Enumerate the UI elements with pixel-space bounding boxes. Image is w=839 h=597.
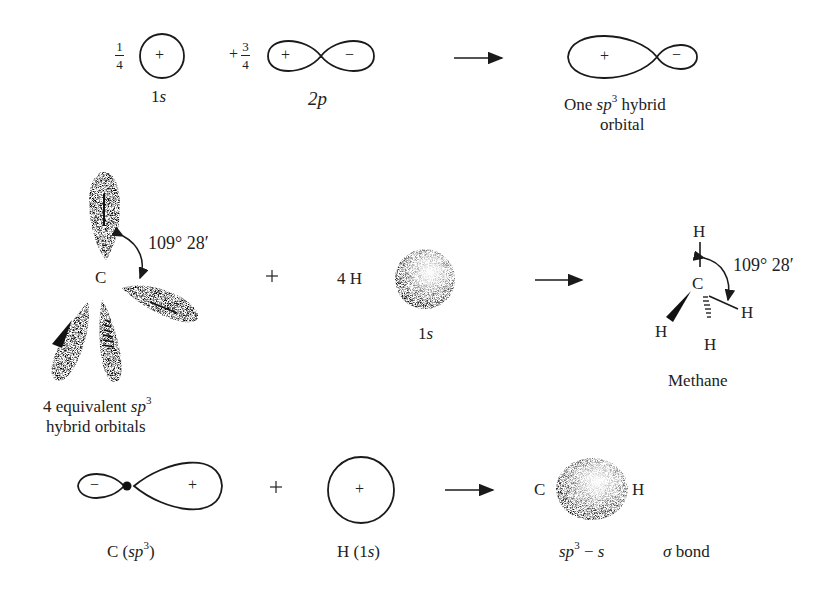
methane-caption: Methane — [668, 372, 727, 389]
hydrogen-1s-sphere — [395, 249, 455, 309]
sigma-bond-cloud — [556, 458, 628, 520]
methane-h-right: H — [741, 304, 753, 321]
hydrogen-1s-label: 1s — [418, 325, 433, 342]
plus-row3 — [270, 481, 282, 493]
sign-1s-plus: + — [155, 47, 164, 63]
methane-h-bottom: H — [704, 336, 716, 353]
bond-left-atom: C — [534, 481, 545, 498]
bond-caption-sigma: σ bond — [663, 543, 710, 560]
hybrid-caption-line1: One sp3 hybrid — [564, 96, 666, 113]
coef-2p-sign: + — [229, 46, 238, 62]
coefficient-2p: 3 4 — [241, 40, 250, 71]
h-1s-caption: H (1s) — [337, 543, 380, 560]
c-sp3-caption: C (sp3) — [107, 543, 155, 560]
sign-2p-minus: − — [345, 47, 354, 63]
plus-row2 — [266, 270, 278, 282]
coef-1s-numerator: 1 — [116, 40, 123, 53]
carbon-label: C — [95, 269, 106, 286]
c-sp3-orbital — [78, 463, 222, 510]
coefficient-1s: 1 4 — [115, 40, 124, 71]
hybrid-caption-line2: orbital — [600, 116, 644, 133]
sp3-lobes — [51, 172, 198, 382]
angle-arrow-sp3 — [123, 236, 142, 278]
hybrid-sign-plus: + — [600, 48, 609, 64]
methane-c: C — [692, 275, 703, 292]
methane-h-top: H — [693, 223, 705, 240]
bond-caption-type: sp3 − s — [559, 543, 604, 560]
diagram-artwork — [0, 0, 839, 597]
coef-2p-denominator: 4 — [242, 58, 249, 71]
methane-angle-label: 109° 28′ — [733, 256, 794, 274]
c-sp3-sign-minus: − — [90, 477, 99, 493]
bond-right-atom: H — [632, 481, 644, 498]
h-1s-sign-plus: + — [355, 481, 364, 497]
label-1s: 1s — [151, 88, 166, 105]
c-sp3-sign-plus: + — [188, 477, 197, 493]
label-2p: 2p — [308, 89, 327, 108]
hybrid-sign-minus: − — [672, 47, 681, 63]
methane-h-left: H — [655, 323, 667, 340]
coef-2p-numerator: 3 — [242, 40, 249, 53]
coef-1s-denominator: 4 — [116, 58, 123, 71]
sp3-caption-line2: hybrid orbitals — [46, 418, 146, 435]
sp3-angle-label: 109° 28′ — [148, 234, 209, 252]
sp3-caption-line1: 4 equivalent sp3 — [43, 398, 151, 415]
sign-2p-plus: + — [281, 47, 290, 63]
hydrogen-count-label: 4 H — [337, 270, 362, 287]
